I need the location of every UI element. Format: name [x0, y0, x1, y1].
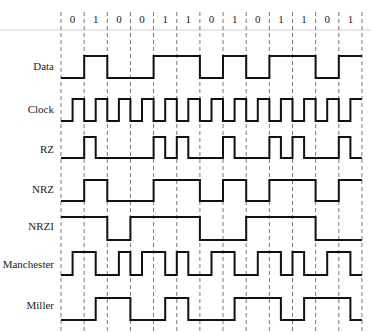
bit-label: 0 [209, 13, 215, 25]
waveform-data [61, 56, 362, 78]
bit-label: 1 [278, 13, 284, 25]
bit-label: 0 [116, 13, 122, 25]
bit-label: 1 [301, 13, 307, 25]
waveforms [61, 56, 362, 320]
bit-label: 1 [186, 13, 192, 25]
bit-gridlines [61, 12, 362, 332]
bit-label: 1 [93, 13, 99, 25]
waveform-nrzi [61, 217, 362, 240]
waveform-manchester [61, 252, 362, 275]
signal-label-manchester: Manchester [3, 258, 55, 270]
bit-labels: 0100110101101 [70, 13, 353, 25]
bit-label: 0 [324, 13, 330, 25]
bit-label: 0 [255, 13, 261, 25]
signal-labels: DataClockRZNRZNRZIManchesterMiller [3, 60, 55, 311]
bit-label: 1 [232, 13, 238, 25]
signal-label-nrz: NRZ [32, 183, 54, 195]
bit-label: 1 [162, 13, 168, 25]
waveform-miller [61, 298, 362, 320]
waveform-rz [61, 137, 362, 158]
signal-label-data: Data [33, 60, 54, 72]
waveform-nrz [61, 180, 362, 201]
signal-label-clock: Clock [28, 103, 55, 115]
signal-label-miller: Miller [27, 299, 55, 311]
bit-label: 0 [70, 13, 76, 25]
waveform-clock [61, 99, 362, 121]
signal-label-nrzi: NRZI [28, 220, 54, 232]
signal-label-rz: RZ [40, 143, 54, 155]
bit-label: 0 [139, 13, 145, 25]
bit-label: 1 [348, 13, 354, 25]
line-coding-diagram: 0100110101101 DataClockRZNRZNRZIManchest… [0, 0, 371, 332]
